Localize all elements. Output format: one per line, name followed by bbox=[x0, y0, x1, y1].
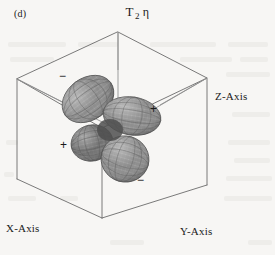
axis-line-y-front bbox=[160, 78, 207, 105]
axis-label-z: Z-Axis bbox=[215, 90, 247, 102]
phase-sign-plus-lower-left: + bbox=[60, 139, 67, 151]
axis-label-x: X-Axis bbox=[6, 222, 40, 234]
cube-edge-bottom-right bbox=[102, 185, 207, 218]
axis-label-y: Y-Axis bbox=[180, 225, 212, 237]
phase-sign-minus-upper-left: − bbox=[59, 70, 66, 82]
phase-sign-minus-lower-right: − bbox=[137, 174, 144, 186]
cube-edge-bottom-left bbox=[17, 179, 102, 218]
orbital-figure: (d) T2η bbox=[0, 0, 275, 255]
orbital-lobes bbox=[53, 66, 164, 188]
lobe-core bbox=[97, 119, 123, 141]
phase-sign-plus-right: + bbox=[150, 103, 157, 115]
axis-line-x-front bbox=[17, 79, 62, 102]
orbital-scene bbox=[0, 0, 275, 255]
